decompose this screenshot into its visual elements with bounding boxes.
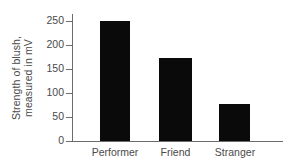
y-axis-tick-label: 150 [38, 62, 64, 74]
y-axis-tick-mark [66, 45, 72, 46]
y-axis-tick-mark [66, 93, 72, 94]
y-axis-tick-mark [66, 69, 72, 70]
bar-chart-figure: Strength of blush, measured in mV 250200… [0, 0, 295, 165]
y-axis-tick-label: 200 [38, 38, 64, 50]
y-axis-title-line-2: measured in mV [23, 39, 35, 117]
y-axis-title-line-1: Strength of blush, [11, 36, 23, 120]
bar-performer [100, 21, 130, 141]
x-axis-label-performer: Performer [89, 146, 141, 158]
y-axis-tick-label: 250 [38, 14, 64, 26]
y-axis-line [72, 14, 73, 142]
bar-friend [159, 58, 192, 141]
bar-stranger [219, 104, 250, 141]
x-axis-line [72, 141, 283, 142]
x-axis-label-stranger: Stranger [209, 146, 261, 158]
y-axis-tick-mark [66, 141, 72, 142]
y-axis-tick-label: 50 [38, 110, 64, 122]
y-axis-tick-label: 0 [38, 134, 64, 146]
y-axis-tick-label: 100 [38, 86, 64, 98]
x-axis-label-friend: Friend [152, 146, 199, 158]
y-axis-tick-mark [66, 117, 72, 118]
y-axis-tick-mark [66, 21, 72, 22]
y-axis-title: Strength of blush, measured in mV [8, 13, 38, 143]
